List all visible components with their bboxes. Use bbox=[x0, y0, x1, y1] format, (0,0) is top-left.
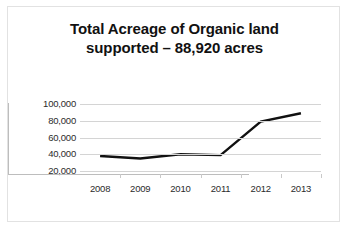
gridline-80000 bbox=[80, 121, 321, 122]
plot-area bbox=[80, 103, 321, 174]
y-tick-label: 60,000 bbox=[24, 133, 76, 143]
y-axis-labels: 100,00080,00060,00040,00020,000 bbox=[20, 7, 76, 223]
x-tick-mark bbox=[120, 174, 121, 178]
x-axis-line bbox=[8, 174, 249, 175]
x-tick-label-2008: 2008 bbox=[90, 183, 110, 195]
x-tick-label-2012: 2012 bbox=[251, 183, 271, 195]
gridline-40000 bbox=[80, 154, 321, 155]
x-tick-mark bbox=[241, 174, 242, 178]
gridline-60000 bbox=[80, 138, 321, 139]
x-tick-label-2010: 2010 bbox=[170, 183, 190, 195]
line-series bbox=[80, 103, 321, 174]
x-tick-mark bbox=[160, 174, 161, 178]
x-tick-label-2011: 2011 bbox=[211, 183, 231, 195]
x-tick-mark bbox=[201, 174, 202, 178]
y-tick-label: 100,000 bbox=[24, 99, 76, 109]
gridline-20000 bbox=[80, 171, 321, 172]
x-axis-labels: 200820092010201120122013 bbox=[80, 183, 321, 197]
y-tick-label: 80,000 bbox=[24, 116, 76, 126]
y-axis-line bbox=[8, 103, 9, 175]
y-tick-label: 40,000 bbox=[24, 149, 76, 159]
x-tick-label-2013: 2013 bbox=[291, 183, 311, 195]
x-tick-mark bbox=[321, 174, 322, 178]
x-tick-mark bbox=[281, 174, 282, 178]
chart-card: Total Acreage of Organic land supported … bbox=[7, 6, 340, 222]
x-tick-label-2009: 2009 bbox=[130, 183, 150, 195]
gridline-100000 bbox=[80, 104, 321, 105]
